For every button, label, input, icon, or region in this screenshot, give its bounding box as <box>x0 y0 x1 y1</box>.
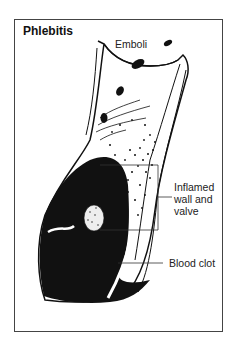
label-blood-clot: Blood clot <box>169 257 215 270</box>
label-inflamed-2: wall and <box>174 193 213 206</box>
embolus <box>163 39 173 48</box>
vein-illustration <box>0 0 236 354</box>
embolus <box>101 113 108 123</box>
label-inflamed-1: Inflamed <box>174 181 214 194</box>
label-inflamed-3: valve <box>174 205 199 218</box>
label-emboli: Emboli <box>115 38 147 51</box>
clot-stipple <box>84 205 104 231</box>
